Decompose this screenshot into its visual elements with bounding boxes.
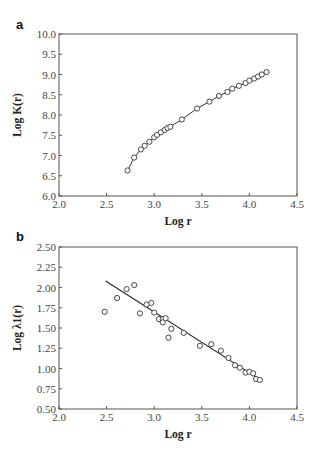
plot-frame [59, 247, 297, 409]
data-point [218, 348, 223, 353]
data-point [114, 295, 119, 300]
data-point [163, 316, 168, 321]
x-tick-label: 3.0 [147, 198, 161, 210]
x-tick-label: 4.5 [290, 198, 304, 210]
y-tick-label: 8.5 [42, 89, 56, 101]
data-point [251, 371, 256, 376]
data-point [207, 99, 212, 104]
data-point [169, 326, 174, 331]
data-point [226, 355, 231, 360]
x-tick-label: 3.5 [195, 411, 209, 423]
data-point [125, 168, 130, 173]
data-point [102, 309, 107, 314]
y-axis-title: Log λ1(r) [11, 305, 24, 351]
x-tick-label: 2.5 [100, 411, 114, 423]
data-point [147, 139, 152, 144]
x-tick-label: 2.5 [100, 198, 114, 210]
chart-canvas: 2.02.53.03.54.04.56.06.57.07.58.08.59.09… [0, 0, 314, 456]
data-point [257, 377, 262, 382]
data-point [225, 89, 230, 94]
data-point [124, 287, 129, 292]
y-tick-label: 8.0 [42, 109, 56, 121]
y-tick-label: 0.75 [37, 383, 57, 395]
data-point [236, 83, 241, 88]
y-tick-label: 6.0 [42, 190, 56, 202]
y-axis-title: Log K(r) [11, 93, 24, 137]
data-point [168, 124, 173, 129]
data-point [142, 143, 147, 148]
y-tick-label: 2.50 [37, 241, 57, 253]
data-point [181, 330, 186, 335]
y-tick-label: 1.00 [37, 363, 57, 375]
series-line [128, 72, 267, 170]
data-point [179, 117, 184, 122]
data-point [137, 311, 142, 316]
x-axis-title: Log r [164, 215, 191, 228]
data-point [197, 343, 202, 348]
data-point [216, 93, 221, 98]
y-tick-label: 10.0 [37, 28, 57, 40]
data-point [237, 365, 242, 370]
y-tick-label: 7.0 [42, 150, 56, 162]
y-tick-label: 2.25 [37, 261, 57, 273]
y-tick-label: 6.5 [42, 170, 56, 182]
y-tick-label: 1.75 [37, 302, 57, 314]
plot-frame [59, 34, 297, 196]
data-point [149, 300, 154, 305]
y-tick-label: 0.50 [37, 403, 57, 415]
data-point [152, 310, 157, 315]
x-tick-label: 3.0 [147, 411, 161, 423]
data-point [230, 86, 235, 91]
data-point [132, 282, 137, 287]
y-tick-label: 1.50 [37, 322, 57, 334]
y-tick-label: 2.00 [37, 282, 57, 294]
data-point [132, 155, 137, 160]
x-tick-label: 4.0 [243, 411, 257, 423]
y-tick-label: 9.0 [42, 69, 56, 81]
plot-a: 2.02.53.03.54.04.56.06.57.07.58.08.59.09… [11, 28, 304, 228]
data-point [194, 106, 199, 111]
y-tick-label: 1.25 [37, 342, 57, 354]
plot-b: 2.02.53.03.54.04.50.500.751.001.251.501.… [11, 241, 304, 441]
x-tick-label: 3.5 [195, 198, 209, 210]
data-point [209, 342, 214, 347]
data-point [166, 335, 171, 340]
data-point [264, 69, 269, 74]
x-tick-label: 4.0 [243, 198, 257, 210]
y-tick-label: 7.5 [42, 129, 56, 141]
x-axis-title: Log r [164, 428, 191, 441]
y-tick-label: 9.5 [42, 48, 56, 60]
x-tick-label: 4.5 [290, 411, 304, 423]
